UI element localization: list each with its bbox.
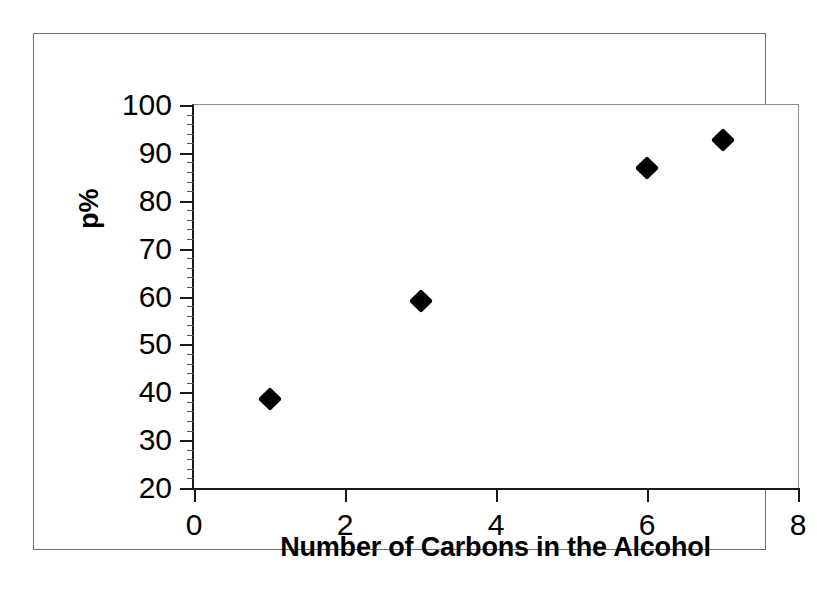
- x-axis-tick: [647, 488, 649, 502]
- y-axis-minor-tick: [187, 335, 194, 336]
- y-axis-tick-label: 70: [108, 234, 172, 264]
- x-axis-tick: [345, 488, 347, 502]
- y-axis-minor-tick: [187, 287, 194, 288]
- y-axis-minor-tick: [187, 268, 194, 269]
- y-axis-tick: [180, 344, 194, 346]
- data-point-marker: [635, 156, 659, 180]
- y-axis-minor-tick: [187, 316, 194, 317]
- y-axis-minor-tick: [187, 191, 194, 192]
- y-axis-tick: [180, 249, 194, 251]
- y-axis-tick: [180, 105, 194, 107]
- y-axis-minor-tick: [187, 210, 194, 211]
- y-axis-tick-label: 90: [108, 138, 172, 168]
- y-axis-minor-tick: [187, 306, 194, 307]
- y-axis-minor-tick: [187, 373, 194, 374]
- y-axis-tick: [180, 153, 194, 155]
- y-axis-tick-label: 100: [108, 90, 172, 120]
- y-axis-minor-tick: [187, 421, 194, 422]
- y-axis-minor-tick: [187, 182, 194, 183]
- y-axis-minor-tick: [187, 364, 194, 365]
- chart-figure-frame: 2030405060708090100 02468 Number of Carb…: [33, 33, 766, 550]
- y-axis-tick-label: 60: [108, 282, 172, 312]
- y-axis-tick: [180, 392, 194, 394]
- y-axis-minor-tick: [187, 124, 194, 125]
- y-axis-minor-tick: [187, 469, 194, 470]
- y-axis-tick: [180, 440, 194, 442]
- y-axis-tick: [180, 201, 194, 203]
- y-axis-minor-tick: [187, 383, 194, 384]
- y-axis-minor-tick: [187, 143, 194, 144]
- y-axis-minor-tick: [187, 478, 194, 479]
- y-axis-minor-tick: [187, 229, 194, 230]
- y-axis-minor-tick: [187, 325, 194, 326]
- y-axis-minor-tick: [187, 220, 194, 221]
- y-axis-minor-tick: [187, 277, 194, 278]
- y-axis-tick-label: 50: [108, 329, 172, 359]
- y-axis-tick: [180, 488, 194, 490]
- x-axis-tick: [798, 488, 800, 502]
- y-axis-minor-tick: [187, 239, 194, 240]
- y-axis-minor-tick: [187, 411, 194, 412]
- y-axis-minor-tick: [187, 354, 194, 355]
- y-axis-minor-tick: [187, 459, 194, 460]
- plot-area: 2030405060708090100 02468: [192, 104, 799, 490]
- y-axis-tick-label: 80: [108, 186, 172, 216]
- data-point-marker: [408, 289, 432, 313]
- y-axis-minor-tick: [187, 115, 194, 116]
- x-axis-tick: [496, 488, 498, 502]
- y-axis-tick: [180, 297, 194, 299]
- y-axis-minor-tick: [187, 258, 194, 259]
- y-axis-minor-tick: [187, 162, 194, 163]
- x-axis-tick: [194, 488, 196, 502]
- y-axis-tick-label: 40: [108, 377, 172, 407]
- y-axis-tick-label: 30: [108, 425, 172, 455]
- y-axis-minor-tick: [187, 134, 194, 135]
- y-axis-minor-tick: [187, 450, 194, 451]
- y-axis-tick-label: 20: [108, 473, 172, 503]
- data-point-marker: [257, 387, 281, 411]
- data-point-marker: [710, 128, 734, 152]
- y-axis-minor-tick: [187, 402, 194, 403]
- y-axis-minor-tick: [187, 431, 194, 432]
- x-axis-title: Number of Carbons in the Alcohol: [192, 532, 799, 563]
- y-axis-minor-tick: [187, 172, 194, 173]
- y-axis-title: p%: [74, 189, 105, 230]
